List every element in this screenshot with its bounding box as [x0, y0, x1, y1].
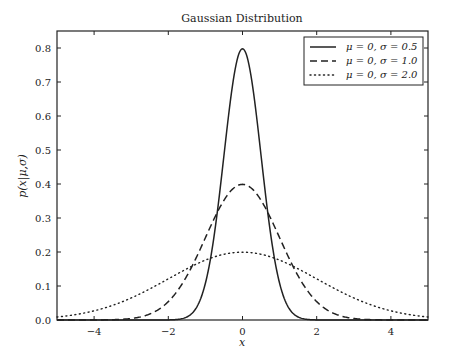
legend: μ = 0, σ = 0.5μ = 0, σ = 1.0μ = 0, σ = 2…	[304, 37, 423, 85]
y-tick-label: 0.7	[35, 77, 51, 88]
curve-sigma-2	[57, 252, 428, 317]
x-axis-label: x	[239, 336, 246, 349]
y-axis-label: p(x|μ,σ)	[16, 154, 30, 198]
y-tick-label: 0.3	[35, 213, 51, 224]
y-tick-label: 0.4	[35, 179, 51, 190]
y-tick-label: 0.1	[35, 281, 51, 292]
gaussian-chart: Gaussian Distribution −4−2024 0.00.10.20…	[0, 0, 450, 358]
chart-title: Gaussian Distribution	[181, 12, 302, 25]
y-tick-label: 0.2	[35, 247, 51, 258]
plot-curves	[57, 49, 428, 320]
x-tick-label: −2	[161, 326, 176, 337]
y-tick-label: 0.6	[35, 111, 51, 122]
x-tick-label: 4	[388, 326, 394, 337]
x-tick-label: −4	[87, 326, 102, 337]
legend-label: μ = 0, σ = 0.5	[346, 41, 417, 52]
x-tick-label: 2	[314, 326, 320, 337]
legend-label: μ = 0, σ = 1.0	[346, 55, 418, 66]
y-tick-label: 0.0	[35, 315, 51, 326]
y-tick-label: 0.8	[35, 43, 51, 54]
y-tick-label: 0.5	[35, 145, 51, 156]
legend-label: μ = 0, σ = 2.0	[346, 69, 418, 80]
